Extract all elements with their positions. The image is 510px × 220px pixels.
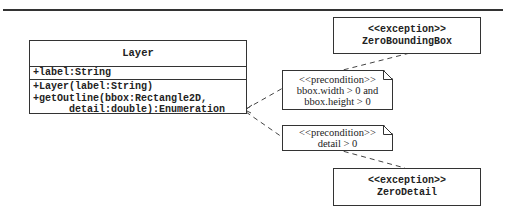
note-fold-corner <box>384 71 393 80</box>
note-fold-corner <box>384 126 393 135</box>
note-corners <box>0 0 510 220</box>
